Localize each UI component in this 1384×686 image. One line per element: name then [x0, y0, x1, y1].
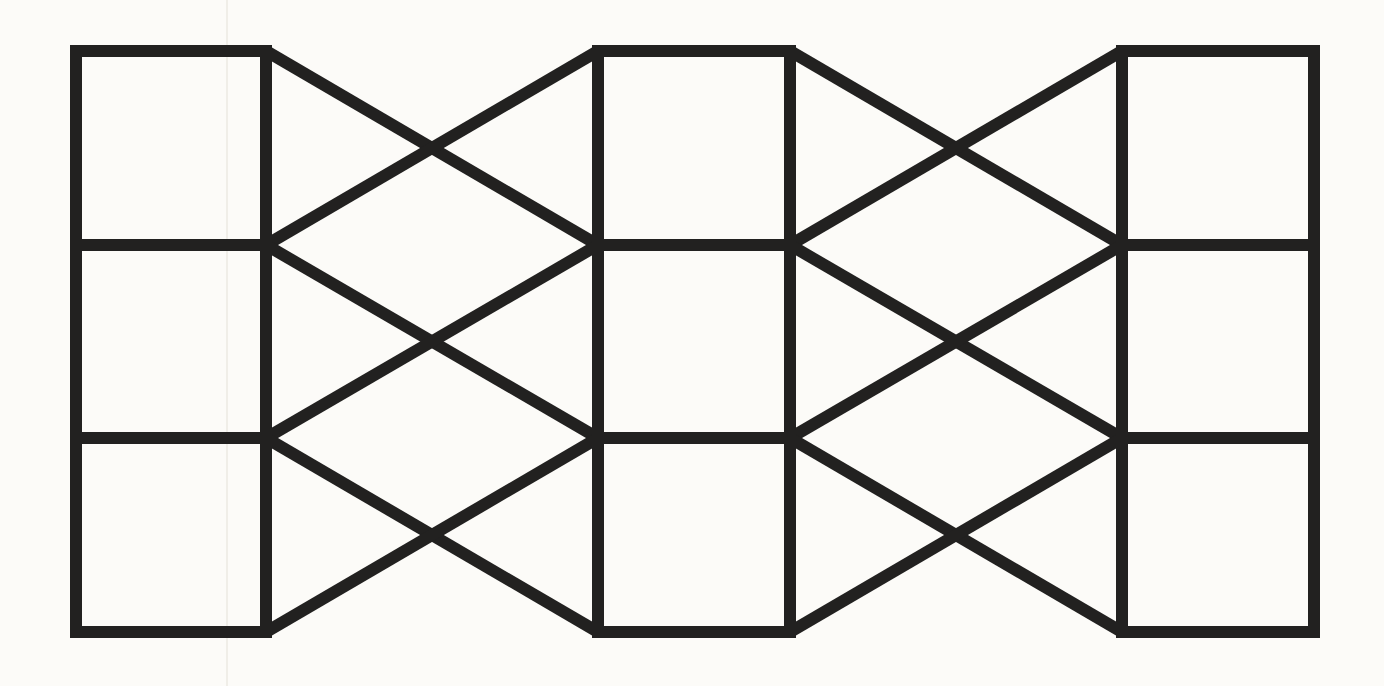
square-column-outline [598, 51, 790, 632]
square-column-outline [1122, 51, 1314, 632]
square-column-outline [76, 51, 266, 632]
lattice-figure [0, 0, 1384, 686]
scanned-page [0, 0, 1384, 686]
